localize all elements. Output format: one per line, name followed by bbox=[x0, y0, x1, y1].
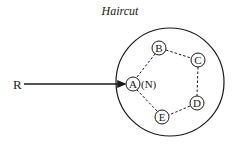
node-b: B bbox=[152, 41, 166, 55]
edge-e-a bbox=[137, 90, 157, 111]
node-e: E bbox=[155, 110, 169, 124]
svg-text:D: D bbox=[193, 97, 201, 109]
edge-c-d bbox=[197, 67, 198, 96]
edge-b-c bbox=[166, 50, 191, 58]
source-label-r: R bbox=[13, 77, 22, 92]
edge-a-b bbox=[137, 54, 155, 77]
node-c: C bbox=[191, 53, 205, 67]
root-annotation: (N) bbox=[141, 78, 157, 91]
haircut-diagram: Haircut R A (N) B C D E bbox=[0, 0, 238, 147]
svg-text:A: A bbox=[129, 78, 137, 90]
edge-d-e bbox=[169, 106, 190, 115]
svg-text:C: C bbox=[194, 54, 201, 66]
node-a: A bbox=[126, 77, 140, 91]
svg-text:B: B bbox=[155, 42, 162, 54]
svg-text:E: E bbox=[159, 111, 166, 123]
node-d: D bbox=[190, 96, 204, 110]
diagram-title: Haircut bbox=[101, 4, 140, 18]
